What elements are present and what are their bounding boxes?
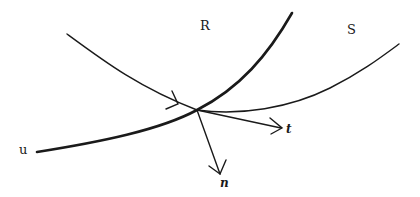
curve-label-u: u	[19, 143, 27, 156]
diagram-canvas	[0, 0, 420, 197]
curve-incoming	[67, 34, 197, 110]
region-label-r: R	[200, 19, 210, 32]
vector-label-t: t	[286, 123, 292, 135]
tangent-vector	[197, 110, 281, 128]
vector-label-n: n	[220, 177, 229, 189]
normal-vector	[197, 110, 220, 174]
region-label-s: S	[347, 23, 356, 36]
curve-s	[197, 44, 399, 112]
curve-u	[37, 13, 292, 152]
